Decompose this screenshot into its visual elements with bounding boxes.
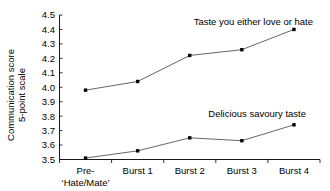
- data-point-marker: [84, 88, 87, 91]
- y-tick-label: 3.5: [42, 154, 55, 165]
- x-axis-category-labels: Pre-‘Hate/Mate’Burst 1Burst 2Burst 3Burs…: [62, 165, 309, 188]
- y-tick-label: 3.7: [42, 125, 55, 136]
- series-group: [84, 28, 296, 160]
- data-point-marker: [240, 139, 243, 142]
- x-category-label: Burst 2: [175, 165, 205, 176]
- x-axis-tick-marks: [60, 160, 321, 164]
- data-point-marker: [188, 54, 191, 57]
- y-tick-label: 4.3: [42, 38, 55, 49]
- series-1: [84, 28, 296, 92]
- series-annotation-love-or-hate: Taste you either love or hate: [194, 16, 313, 27]
- chart-canvas: Communication score 5-point scale 3.53.6…: [0, 0, 330, 191]
- data-point-marker: [292, 28, 295, 31]
- y-tick-label: 4.2: [42, 53, 55, 64]
- y-tick-label: 3.8: [42, 111, 55, 122]
- series-2: [84, 123, 296, 160]
- x-category-label: Burst 3: [227, 165, 257, 176]
- x-category-label: Burst 4: [279, 165, 309, 176]
- line-chart: Communication score 5-point scale 3.53.6…: [0, 0, 330, 191]
- y-tick-label: 4.4: [42, 24, 55, 35]
- series-annotation-savoury-taste: Delicious savoury taste: [208, 108, 306, 119]
- data-point-marker: [240, 48, 243, 51]
- y-axis-title: Communication score 5-point scale: [5, 49, 27, 141]
- x-category-label-sub: ‘Hate/Mate’: [62, 177, 110, 188]
- data-point-marker: [84, 156, 87, 159]
- x-category-label: Pre-: [77, 165, 95, 176]
- y-tick-label: 4.1: [42, 67, 55, 78]
- y-tick-label: 3.9: [42, 96, 55, 107]
- data-point-marker: [136, 149, 139, 152]
- data-point-marker: [136, 80, 139, 83]
- series-line: [86, 29, 294, 90]
- y-axis-tick-labels: 3.53.63.73.83.94.04.14.24.34.44.5: [42, 9, 55, 165]
- y-tick-label: 4.5: [42, 9, 55, 20]
- series-line: [86, 125, 294, 158]
- y-tick-label: 4.0: [42, 82, 55, 93]
- x-category-label: Burst 1: [123, 165, 153, 176]
- y-axis-title-line2: 5-point scale: [16, 68, 27, 122]
- y-axis-title-line1: Communication score: [5, 49, 16, 141]
- data-point-marker: [188, 136, 191, 139]
- y-tick-label: 3.6: [42, 139, 55, 150]
- data-point-marker: [292, 123, 295, 126]
